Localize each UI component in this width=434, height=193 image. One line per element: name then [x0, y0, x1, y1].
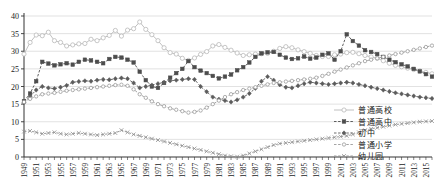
data-point-marker [308, 57, 312, 61]
y-axis-tick-label: 15 [11, 100, 19, 109]
data-point-marker [369, 58, 372, 61]
legend-label-char: 初 [358, 128, 366, 138]
legend-label-char: 中 [367, 128, 375, 138]
data-point-marker [192, 56, 196, 60]
data-point-marker [342, 143, 345, 146]
data-point-marker [175, 108, 178, 111]
data-point-marker [394, 52, 397, 55]
y-axis-tick-label: 20 [11, 83, 19, 92]
data-point-marker [296, 57, 300, 61]
data-point-marker [144, 27, 148, 31]
data-point-marker [351, 50, 355, 54]
data-point-marker [296, 78, 299, 81]
data-point-marker [156, 39, 160, 43]
data-point-marker [357, 44, 361, 48]
x-axis-tick-label: 1991 [277, 163, 285, 178]
x-axis-tick-label: 1967 [131, 163, 139, 178]
x-axis-tick-label: 1993 [289, 163, 297, 178]
data-point-marker [41, 93, 44, 96]
legend-label-char: 普 [358, 140, 366, 150]
legend-label-char: 校 [384, 105, 392, 115]
data-point-marker [248, 87, 251, 90]
legend-label: 普通高中 [358, 117, 392, 127]
legend-label: 幼儿园 [358, 151, 383, 161]
data-point-marker [174, 71, 178, 75]
data-point-marker [65, 61, 69, 65]
data-point-marker [260, 52, 264, 56]
data-point-marker [430, 75, 434, 79]
x-axis-tick-label: 1961 [94, 163, 102, 178]
data-point-marker [229, 48, 233, 52]
data-point-marker [345, 66, 348, 69]
x-axis-tick-label: 1957 [70, 163, 78, 178]
legend-label-char: 学 [384, 140, 392, 150]
data-point-marker [278, 53, 282, 57]
data-point-marker [71, 88, 74, 91]
data-point-marker [412, 67, 416, 71]
data-point-marker [406, 65, 410, 69]
x-axis-tick-label: 1977 [192, 163, 200, 178]
data-point-marker [150, 100, 153, 103]
data-point-marker [144, 96, 147, 99]
x-axis-tick-label: 1985 [240, 163, 248, 178]
legend-label-char: 普 [358, 117, 366, 127]
data-point-marker [363, 59, 366, 62]
x-axis-tick-label: 1969 [143, 163, 151, 178]
data-point-marker [235, 90, 238, 93]
x-axis-tick-label: 1987 [252, 163, 260, 178]
data-point-marker [77, 42, 81, 46]
chart-container: 0510152025303540194919511953195519571959… [0, 0, 434, 193]
data-point-marker [150, 33, 154, 37]
data-point-marker [34, 79, 38, 83]
data-point-marker [47, 92, 50, 95]
data-point-marker [120, 56, 124, 60]
y-axis-tick-label: 0 [15, 153, 19, 162]
data-point-marker [424, 45, 427, 48]
data-point-marker [387, 61, 391, 65]
data-point-marker [193, 65, 197, 69]
data-point-marker [309, 77, 312, 80]
x-axis-tick-label: 1989 [265, 163, 273, 178]
data-point-marker [254, 86, 257, 89]
data-point-marker [132, 88, 135, 91]
y-axis-tick-label: 10 [11, 118, 19, 127]
data-point-marker [211, 74, 215, 78]
data-point-marker [83, 87, 86, 90]
data-point-marker [369, 50, 373, 54]
data-point-marker [321, 74, 324, 77]
data-point-marker [168, 107, 171, 110]
data-point-marker [272, 50, 276, 54]
data-point-marker [211, 102, 214, 105]
x-axis-tick-label: 2001 [338, 163, 346, 178]
data-point-marker [342, 108, 346, 112]
data-point-marker [199, 69, 203, 73]
legend-label-char: 通 [367, 140, 375, 150]
data-point-marker [138, 93, 141, 96]
data-point-marker [174, 52, 178, 56]
data-point-marker [53, 64, 57, 68]
data-point-marker [77, 60, 81, 64]
legend-label-char: 普 [358, 105, 366, 115]
data-point-marker [418, 70, 422, 74]
data-point-marker [375, 57, 378, 60]
x-axis-tick-label: 2009 [386, 163, 394, 178]
data-point-marker [198, 52, 202, 56]
data-point-marker [327, 52, 331, 56]
data-point-marker [193, 110, 196, 113]
data-point-marker [113, 28, 117, 32]
data-point-marker [46, 30, 50, 34]
x-axis-tick-label: 1949 [21, 163, 29, 178]
data-point-marker [363, 53, 367, 57]
data-point-marker [71, 63, 75, 67]
data-point-marker [345, 51, 349, 55]
data-point-marker [235, 68, 239, 72]
data-point-marker [40, 60, 44, 64]
data-point-marker [223, 95, 226, 98]
data-point-marker [125, 28, 129, 32]
data-point-marker [278, 46, 282, 50]
data-point-marker [107, 57, 111, 61]
data-point-marker [132, 27, 136, 31]
data-point-marker [101, 85, 104, 88]
data-point-marker [332, 53, 336, 57]
x-axis-tick-label: 1959 [82, 163, 90, 178]
